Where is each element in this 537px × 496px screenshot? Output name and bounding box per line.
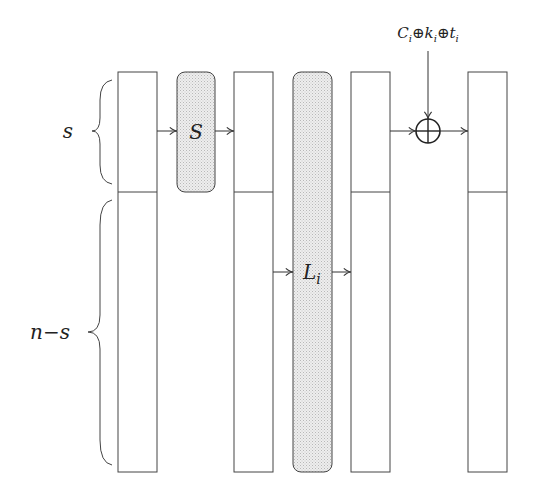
state-column-2: [234, 72, 273, 472]
state-column-1: [118, 72, 157, 472]
xor-icon: [416, 119, 440, 143]
cipher-round-diagram: s n−s S Li Ci⊕ki⊕ti: [0, 0, 537, 496]
n-minus-s-label: n−s: [30, 320, 70, 344]
state-column-4: [468, 72, 507, 472]
s-label: s: [63, 119, 73, 143]
xor-input-label: Ci⊕ki⊕ti: [397, 24, 458, 44]
s-brace: [92, 80, 112, 184]
sbox-label: S: [189, 120, 203, 144]
state-column-3: [351, 72, 390, 472]
n-minus-s-brace: [88, 200, 112, 465]
